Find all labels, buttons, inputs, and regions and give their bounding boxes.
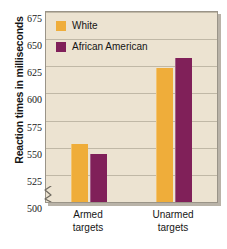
y-tick-label: 600 [12,95,42,105]
y-tick-label: 575 [12,123,42,133]
bar-white-armed-targets [71,144,88,202]
bar-highlight [156,68,173,202]
bar-white-unarmed-targets [156,68,173,202]
bar-highlight [175,58,192,202]
y-tick-label: 500 [12,204,42,214]
y-tick-label: 525 [12,177,42,187]
x-axis-label-line: Armed [48,208,128,221]
y-axis-tick-labels: 500525550575600625650675 [12,9,42,195]
gridline [46,12,217,13]
y-tick-label: 650 [12,41,42,51]
x-axis-label-line: targets [48,221,128,234]
bar-african-american-armed-targets [90,154,107,202]
legend-swatch-african-american-icon [56,42,66,52]
x-axis-label-line: targets [133,221,213,234]
x-axis-label-line: Unarmed [133,208,213,221]
x-axis-category-labels: ArmedtargetsUnarmedtargets [45,208,218,240]
y-tick-label: 550 [12,150,42,160]
chart-figure: Reaction times in milliseconds 500525550… [0,0,227,249]
x-axis-label-unarmed-targets: Unarmedtargets [133,208,213,234]
legend-item-white: White [56,17,168,34]
chart-legend: White African American [56,17,168,59]
legend-label-african-american: African American [72,41,148,52]
bar-african-american-unarmed-targets [175,58,192,202]
legend-item-african-american: African American [56,38,168,55]
y-tick-label: 625 [12,68,42,78]
bar-highlight [90,154,107,202]
x-axis-label-armed-targets: Armedtargets [48,208,128,234]
bar-highlight [71,144,88,202]
legend-swatch-white-icon [56,21,66,31]
legend-label-white: White [72,20,98,31]
y-tick-label: 675 [12,14,42,24]
axis-break-icon [40,186,54,202]
